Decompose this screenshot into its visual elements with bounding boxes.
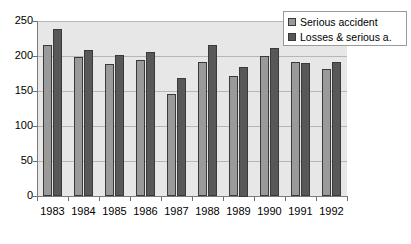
bar <box>260 56 269 196</box>
x-axis-tick-label: 1989 <box>223 205 254 217</box>
bar <box>115 55 124 196</box>
x-axis-tick-mark <box>285 197 286 201</box>
y-axis-tick-label: 200 <box>3 50 33 61</box>
x-axis-tick-mark <box>99 197 100 201</box>
y-axis-labels: 050100150200250 <box>0 0 33 244</box>
bar <box>53 29 62 196</box>
bar <box>84 50 93 196</box>
legend: Serious accident Losses & serious a. <box>283 11 407 46</box>
bar <box>332 62 341 196</box>
bar <box>43 45 52 196</box>
y-axis-tick-label: 50 <box>3 155 33 166</box>
y-axis-tick-label: 100 <box>3 120 33 131</box>
y-axis-tick-label: 150 <box>3 85 33 96</box>
bar <box>322 69 331 196</box>
x-axis-tick-label: 1992 <box>316 205 347 217</box>
bar <box>229 76 238 196</box>
x-axis-tick-label: 1988 <box>192 205 223 217</box>
x-axis-tick-mark <box>254 197 255 201</box>
bar <box>270 48 279 196</box>
bar <box>177 78 186 196</box>
legend-item[interactable]: Serious accident <box>288 14 402 29</box>
x-axis-tick-mark <box>130 197 131 201</box>
bar <box>198 62 207 196</box>
y-axis-tick-mark <box>33 161 37 162</box>
bar <box>301 63 310 196</box>
legend-swatch-icon <box>288 18 296 26</box>
x-axis-tick-label: 1985 <box>99 205 130 217</box>
y-axis-tick-mark <box>33 21 37 22</box>
x-axis-tick-label: 1986 <box>130 205 161 217</box>
legend-item[interactable]: Losses & serious a. <box>288 29 402 44</box>
x-axis-tick-mark <box>68 197 69 201</box>
legend-swatch-icon <box>288 33 296 41</box>
bar <box>136 60 145 196</box>
legend-item-label: Losses & serious a. <box>300 31 392 43</box>
bar <box>291 62 300 196</box>
x-axis-tick-label: 1983 <box>37 205 68 217</box>
x-axis-tick-mark <box>37 197 38 201</box>
y-axis-tick-label: 0 <box>3 190 33 201</box>
x-axis-tick-mark <box>161 197 162 201</box>
y-axis-tick-mark <box>33 126 37 127</box>
bar <box>239 67 248 197</box>
bar <box>74 57 83 196</box>
x-axis-tick-mark <box>223 197 224 201</box>
x-axis-labels: 1983198419851986198719881989199019911992 <box>37 205 348 221</box>
x-axis-tick-mark <box>192 197 193 201</box>
x-axis-tick-mark <box>347 197 348 201</box>
x-axis-tick-label: 1987 <box>161 205 192 217</box>
bar <box>146 52 155 196</box>
x-axis-tick-label: 1990 <box>254 205 285 217</box>
x-axis-tick-label: 1991 <box>285 205 316 217</box>
y-axis-tick-mark <box>33 56 37 57</box>
bar-chart: 050100150200250 198319841985198619871988… <box>0 0 411 244</box>
bar <box>208 45 217 196</box>
x-axis-tick-label: 1984 <box>68 205 99 217</box>
bar <box>105 64 114 196</box>
x-axis-tick-mark <box>316 197 317 201</box>
y-axis-line <box>37 21 38 197</box>
bar <box>167 94 176 196</box>
legend-item-label: Serious accident <box>300 16 378 28</box>
y-axis-tick-label: 250 <box>3 15 33 26</box>
y-axis-tick-mark <box>33 91 37 92</box>
